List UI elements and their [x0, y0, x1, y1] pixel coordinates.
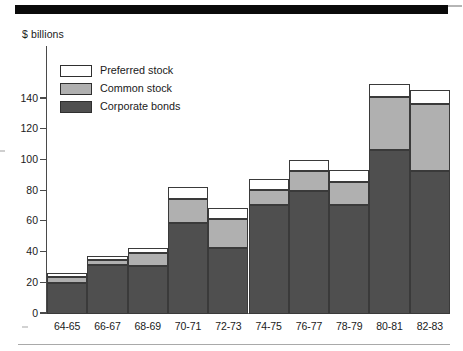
bar-segment-corporate-bonds [168, 223, 208, 314]
y-tick-mark [40, 128, 47, 129]
x-axis-label: 70-71 [168, 320, 208, 332]
y-axis-title: $ billions [22, 28, 64, 40]
x-axis-label: 80-81 [369, 320, 409, 332]
legend-label-corporate-bonds: Corporate bonds [100, 100, 180, 113]
bar-segment-corporate-bonds [208, 248, 248, 314]
bar-segment-preferred-stock [87, 256, 127, 261]
bar-segment-common-stock [329, 182, 369, 205]
y-tick-label-wrap: 40 [0, 246, 38, 256]
y-tick-label: 40 [4, 246, 38, 256]
bar-segment-preferred-stock [208, 208, 248, 219]
y-tick-label-wrap: 120 [0, 123, 38, 133]
bar-segment-common-stock [289, 171, 329, 191]
y-tick-label: 20 [4, 277, 38, 287]
y-tick-mark [40, 282, 47, 283]
y-tick-mark [40, 159, 47, 160]
y-tick-mark [40, 312, 47, 313]
bar-segment-common-stock [168, 199, 208, 224]
y-tick-label-wrap: 140 [0, 93, 38, 103]
bar-segment-preferred-stock [289, 160, 329, 171]
bar-column [249, 47, 289, 314]
y-tick-label: 140 [4, 93, 38, 103]
stacked-bar-chart: $ billions 020406080100120140 64-6566-67… [0, 0, 463, 351]
y-tick-label-wrap: 80 [0, 185, 38, 195]
bar-segment-corporate-bonds [249, 205, 289, 314]
bar-segment-preferred-stock [329, 170, 369, 182]
legend-swatch-preferred-stock [60, 65, 92, 77]
bar-segment-corporate-bonds [329, 205, 369, 314]
x-axis-label: 66-67 [87, 320, 127, 332]
bar-column [369, 47, 409, 314]
x-axis-label: 76-77 [289, 320, 329, 332]
y-tick-mark [40, 220, 47, 221]
bar-segment-common-stock [410, 104, 450, 172]
y-tick-label-wrap: 100 [0, 154, 38, 164]
bar-segment-corporate-bonds [87, 265, 127, 314]
legend-swatch-corporate-bonds [60, 101, 92, 113]
bar-segment-preferred-stock [168, 187, 208, 199]
bar-segment-corporate-bonds [128, 266, 168, 314]
bar-segment-common-stock [369, 97, 409, 149]
y-tick-label-wrap: 0 [0, 308, 38, 318]
y-tick-mark [40, 97, 47, 98]
bar-column [329, 47, 369, 314]
bar-column [208, 47, 248, 314]
bar-segment-preferred-stock [128, 248, 168, 253]
y-tick-mark [40, 190, 47, 191]
bar-segment-preferred-stock [47, 273, 87, 278]
x-axis-label: 64-65 [47, 320, 87, 332]
bar-segment-preferred-stock [249, 179, 289, 190]
bar-segment-preferred-stock [410, 90, 450, 104]
bar-column [410, 47, 450, 314]
bar-segment-corporate-bonds [410, 171, 450, 314]
x-axis-label: 68-69 [128, 320, 168, 332]
bar-segment-preferred-stock [369, 84, 409, 98]
y-tick-label: 100 [4, 154, 38, 164]
y-tick-mark [40, 251, 47, 252]
y-tick-label: 60 [4, 215, 38, 225]
x-axis-label: 82-83 [410, 320, 450, 332]
x-axis-label: 72-73 [208, 320, 248, 332]
page-bottom-rule [18, 344, 450, 345]
x-axis-label: 74-75 [249, 320, 289, 332]
bar-column [168, 47, 208, 314]
bar-segment-corporate-bonds [47, 283, 87, 314]
y-tick-label: 120 [4, 123, 38, 133]
y-tick-label: 0 [4, 308, 38, 318]
x-axis-label: 78-79 [329, 320, 369, 332]
y-tick-label-wrap: 20 [0, 277, 38, 287]
legend-swatch-common-stock [60, 83, 92, 95]
bar-segment-common-stock [208, 219, 248, 248]
legend-label-common-stock: Common stock [100, 82, 172, 95]
bar-segment-common-stock [128, 253, 168, 267]
bar-segment-common-stock [87, 260, 127, 265]
bar-segment-corporate-bonds [369, 150, 409, 314]
bar-segment-corporate-bonds [289, 191, 329, 314]
legend-label-preferred-stock: Preferred stock [100, 64, 173, 77]
y-tick-label: 80 [4, 185, 38, 195]
bar-segment-common-stock [47, 277, 87, 283]
bar-segment-common-stock [249, 190, 289, 205]
y-tick-label-wrap: 60 [0, 215, 38, 225]
bar-column [289, 47, 329, 314]
